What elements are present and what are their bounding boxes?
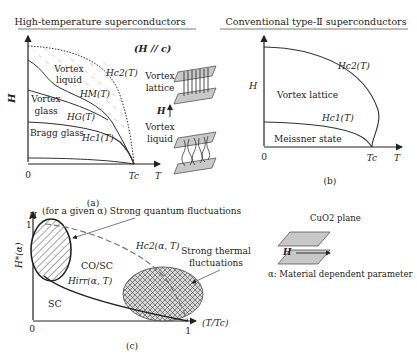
hc1-curve-a	[28, 158, 134, 164]
label-hc1-a: Hc1(T)	[81, 133, 114, 143]
thermal-annotation-arrow	[192, 270, 220, 283]
panel-b-origin: 0	[261, 152, 267, 162]
cuo2-top-plane	[278, 232, 330, 246]
label-sc: SC	[48, 298, 62, 309]
panel-c-y-label: H*(α)	[14, 242, 24, 269]
label-hm: HM(T)	[79, 89, 111, 99]
label-hc2-b: Hc2(T)	[337, 61, 370, 71]
phase-diagram-figure: High-temperature superconductors H 0 Tc …	[0, 0, 417, 360]
panel-a: High-temperature superconductors H 0 Tc …	[6, 16, 216, 208]
inset-vortex-lattice-1: Vortex	[144, 71, 174, 81]
panel-c: H H*(α) 1 0 1 (T/Tc) (for a given α) Str…	[14, 206, 413, 351]
lattice-vortex-lines	[184, 68, 208, 96]
panel-c-x-tick: 1	[185, 326, 191, 336]
cuo2-plane-label: CuO2 plane	[310, 213, 361, 223]
panel-a-origin: 0	[25, 170, 31, 180]
liquid-bottom-plane	[174, 158, 216, 174]
annotation-thermal-2: fluctuations	[189, 258, 243, 268]
lattice-bottom-plane	[174, 88, 216, 104]
label-hirr: Hirr(α, T)	[67, 276, 113, 286]
panel-c-x-label: (T/Tc)	[202, 318, 229, 328]
field-direction-label: (H // c)	[134, 43, 171, 54]
inset-vortex-lattice-2: lattice	[146, 83, 175, 93]
label-bragg-glass: Bragg glass	[30, 128, 84, 138]
vortex-lattice-inset: Vortex lattice	[144, 66, 216, 104]
panel-a-x-label: T	[155, 171, 162, 181]
inset-h-label: H	[156, 106, 166, 116]
label-vortex-lattice: Vortex lattice	[276, 90, 338, 100]
label-vortex-liquid-2: liquid	[56, 75, 82, 85]
label-hc2-c: Hc2(α, T)	[135, 241, 180, 251]
label-hc1-b: Hc1(T)	[321, 113, 354, 123]
annotation-quantum: (for a given α) Strong quantum fluctuati…	[42, 206, 242, 216]
panel-b: Conventional type-Ⅱ superconductors H 0 …	[220, 16, 408, 186]
alpha-note: α: Material dependent parameter	[268, 269, 413, 279]
panel-a-tc: Tc	[129, 171, 139, 181]
vortex-liquid-inset: Vortex liquid	[144, 122, 216, 174]
panel-b-tc: Tc	[367, 153, 377, 163]
lattice-top-plane	[174, 66, 216, 82]
label-hg: HG(T)	[66, 112, 96, 122]
label-vortex-glass-2: glass	[34, 106, 58, 116]
quantum-annotation-arrow	[73, 218, 135, 238]
label-co-sc: CO/SC	[81, 260, 113, 271]
label-hc2-a: Hc2(T)	[105, 68, 138, 78]
panel-c-y-tick: 1	[26, 220, 32, 230]
label-vortex-liquid-1: Vortex	[53, 64, 83, 74]
panel-a-y-label: H	[6, 93, 17, 104]
cuo2-h-label: H	[282, 247, 292, 257]
panel-b-caption: (b)	[324, 176, 337, 186]
panel-c-caption: (c)	[126, 341, 138, 351]
cuo2-inset: CuO2 plane H α: Material dependent param…	[268, 213, 413, 279]
annotation-thermal-1: Strong thermal	[181, 246, 251, 256]
inset-vortex-liquid-2: liquid	[147, 134, 173, 144]
label-vortex-glass-1: Vortex	[30, 94, 60, 104]
panel-b-x-label: T	[394, 153, 401, 163]
inset-vortex-liquid-1: Vortex	[144, 122, 174, 132]
panel-a-title: High-temperature superconductors	[14, 16, 185, 27]
label-meissner-state: Meissner state	[274, 134, 342, 144]
panel-c-origin: 0	[29, 324, 35, 334]
panel-b-title: Conventional type-Ⅱ superconductors	[225, 16, 406, 27]
panel-b-y-label: H	[248, 80, 258, 91]
